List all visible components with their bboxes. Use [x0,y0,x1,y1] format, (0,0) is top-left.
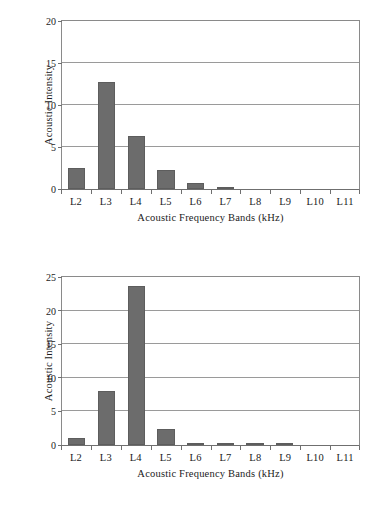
bar-category [300,277,330,445]
x-axis-tick [330,190,360,195]
bar-category [270,277,300,445]
bar [187,183,204,189]
bar-category [211,277,241,445]
y-axis-tick-label: 5 [51,406,62,417]
x-axis-tick-label: L2 [61,196,91,212]
x-axis-tick [270,190,300,195]
x-axis-tick-label: L4 [121,452,151,468]
x-axis-tick [151,190,181,195]
bar [246,443,263,445]
bar-series-top [62,21,359,189]
bar [276,443,293,445]
bar-category [151,277,181,445]
bar [157,170,174,189]
x-axis-ticks-top [61,190,360,195]
bar [217,443,234,445]
bar-category [181,21,211,189]
bar-category [121,21,151,189]
x-axis-tick [300,446,330,451]
chart-bottom: Acoustic Intensity 0510152025 L2L3L4L5L6… [0,256,381,511]
bar-category [329,21,359,189]
x-axis-tick [240,190,270,195]
bar-category [62,277,92,445]
bar-category [151,21,181,189]
bar-category [270,21,300,189]
x-axis-tick-label: L11 [330,452,360,468]
x-axis-tick-label: L10 [300,452,330,468]
bar-category [92,21,122,189]
bar [217,187,234,189]
bar [98,391,115,445]
bar-category [92,277,122,445]
x-axis-tick-label: L11 [330,196,360,212]
x-axis-tick-label: L2 [61,452,91,468]
x-axis-tick-label: L7 [211,452,241,468]
y-axis-tick-label: 20 [46,305,62,316]
x-axis-tick [181,446,211,451]
bar [68,438,85,445]
x-axis-tick [330,446,360,451]
x-axis-tick-label: L8 [240,452,270,468]
y-axis-tick-label: 20 [46,16,62,27]
x-axis-tick-label: L5 [151,196,181,212]
x-axis-tick [91,446,121,451]
y-axis-title-wrap-bottom: Acoustic Intensity [22,276,36,446]
x-axis-tick-label: L3 [91,196,121,212]
bar [157,429,174,445]
x-axis-tick-label: L8 [240,196,270,212]
x-axis-title-top: Acoustic Frequency Bands (kHz) [61,212,360,223]
x-axis-tick [211,446,241,451]
x-axis-tick [91,190,121,195]
x-axis-tick-label: L9 [270,452,300,468]
bar-category [240,277,270,445]
x-axis-labels-top: L2L3L4L5L6L7L8L9L10L11 [61,196,360,212]
bar-category [240,21,270,189]
x-axis-tick-label: L3 [91,452,121,468]
x-axis-tick [181,190,211,195]
x-axis-tick [270,446,300,451]
bar-category [329,277,359,445]
bar-category [62,21,92,189]
x-axis-tick [61,446,91,451]
bar-category [211,21,241,189]
x-axis-tick [211,190,241,195]
y-axis-tick-label: 5 [51,142,62,153]
x-axis-tick [151,446,181,451]
figure-two-bar-charts: Acoustic Intensity 05101520 L2L3L4L5L6L7… [0,0,381,511]
plot-area-top: 05101520 [61,20,360,190]
bar-category [121,277,151,445]
bar-series-bottom [62,277,359,445]
y-axis-tick-label: 25 [46,272,62,283]
bar [128,136,145,189]
bar-category [181,277,211,445]
x-axis-tick-label: L7 [211,196,241,212]
x-axis-tick [61,190,91,195]
bar [128,286,145,445]
y-axis-tick-label: 10 [46,100,62,111]
bar [98,82,115,189]
x-axis-ticks-bottom [61,446,360,451]
bar-category [300,21,330,189]
chart-top: Acoustic Intensity 05101520 L2L3L4L5L6L7… [0,0,381,255]
x-axis-tick [240,446,270,451]
x-axis-tick-label: L6 [181,196,211,212]
x-axis-title-bottom: Acoustic Frequency Bands (kHz) [61,468,360,479]
plot-area-bottom: 0510152025 [61,276,360,446]
y-axis-tick-label: 15 [46,339,62,350]
y-axis-tick-label: 15 [46,58,62,69]
x-axis-tick-label: L5 [151,452,181,468]
x-axis-tick-label: L6 [181,452,211,468]
x-axis-tick [300,190,330,195]
y-axis-tick-label: 10 [46,372,62,383]
x-axis-tick-label: L4 [121,196,151,212]
x-axis-tick [121,190,151,195]
y-axis-title-wrap-top: Acoustic Intensity [22,20,36,190]
x-axis-tick [121,446,151,451]
x-axis-tick-label: L9 [270,196,300,212]
bar [187,443,204,445]
x-axis-labels-bottom: L2L3L4L5L6L7L8L9L10L11 [61,452,360,468]
bar [68,168,85,189]
x-axis-tick-label: L10 [300,196,330,212]
